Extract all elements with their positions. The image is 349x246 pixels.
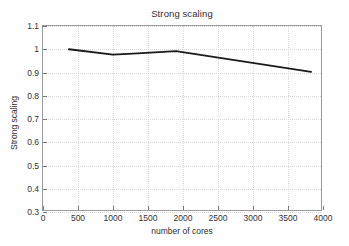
y-tick-label: 1 [34, 44, 39, 54]
x-tick-label: 3000 [244, 213, 263, 223]
y-axis-label: Strong scaling [9, 73, 19, 173]
x-axis-label: number of cores [42, 226, 322, 236]
x-tick-label: 1000 [104, 213, 123, 223]
x-tick-mark [323, 206, 324, 210]
y-tick-label: 1.1 [27, 21, 39, 31]
y-tick-label: 0.5 [27, 161, 39, 171]
x-tick-label: 4000 [314, 213, 333, 223]
y-tick-label: 0.9 [27, 68, 39, 78]
x-tick-label: 1500 [139, 213, 158, 223]
y-tick-label: 0.7 [27, 114, 39, 124]
series-layer [43, 26, 323, 212]
chart-title: Strong scaling [42, 8, 322, 19]
y-tick-label: 0.8 [27, 91, 39, 101]
figure-canvas: Strong scaling 0.30.40.50.60.70.80.911.1… [0, 0, 349, 246]
y-tick-label: 0.3 [27, 207, 39, 217]
y-tick-label: 0.4 [27, 184, 39, 194]
plot-area: 0.30.40.50.60.70.80.911.1 05001000150020… [42, 25, 322, 211]
x-tick-label: 2000 [174, 213, 193, 223]
x-tick-label: 3500 [279, 213, 298, 223]
x-tick-label: 2500 [209, 213, 228, 223]
x-tick-label: 0 [41, 213, 46, 223]
x-tick-label: 500 [71, 213, 85, 223]
y-tick-label: 0.6 [27, 137, 39, 147]
series-line-strong-scaling [69, 49, 311, 72]
